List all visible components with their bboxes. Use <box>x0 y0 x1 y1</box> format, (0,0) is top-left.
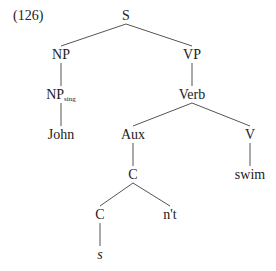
tree-edge-c1-c2 <box>100 183 133 206</box>
tree-node-np: NP <box>52 47 70 62</box>
tree-node-john: John <box>48 127 74 142</box>
node-label: s <box>97 247 103 262</box>
tree-node-aux: Aux <box>121 127 145 142</box>
tree-node-vp: VP <box>183 47 201 62</box>
tree-node-c1: C <box>128 167 137 182</box>
tree-edge-verb-v <box>192 103 250 126</box>
tree-edges <box>61 24 250 246</box>
node-label: VP <box>183 47 201 62</box>
node-label: n't <box>163 207 177 222</box>
tree-node-s: s <box>97 247 103 262</box>
tree-edge-verb-aux <box>133 103 192 126</box>
tree-node-c2: C <box>95 207 104 222</box>
node-label: S <box>122 8 130 23</box>
tree-node-verb: Verb <box>179 87 205 102</box>
node-label: NP <box>46 87 64 102</box>
tree-nodes: SNPVPNPsingVerbJohnAuxVCswimCn'ts <box>46 8 265 262</box>
node-label: V <box>245 127 255 142</box>
tree-node-v: V <box>245 127 255 142</box>
node-label: C <box>128 167 137 182</box>
node-label: Verb <box>179 87 205 102</box>
tree-node-swim: swim <box>235 167 265 182</box>
tree-edge-s-np <box>61 24 126 46</box>
tree-node-npsing: NPsing <box>46 87 76 103</box>
example-number: (126) <box>13 8 44 24</box>
tree-edge-s-vp <box>126 24 192 46</box>
node-label: Aux <box>121 127 145 142</box>
tree-node-s: S <box>122 8 130 23</box>
node-label: NP <box>52 47 70 62</box>
tree-edge-c1-nt <box>133 183 170 206</box>
node-label: swim <box>235 167 265 182</box>
node-label: C <box>95 207 104 222</box>
tree-node-nt: n't <box>163 207 177 222</box>
syntax-tree: (126) SNPVPNPsingVerbJohnAuxVCswimCn'ts <box>0 0 276 271</box>
node-subscript: sing <box>64 95 76 103</box>
node-label: John <box>48 127 74 142</box>
